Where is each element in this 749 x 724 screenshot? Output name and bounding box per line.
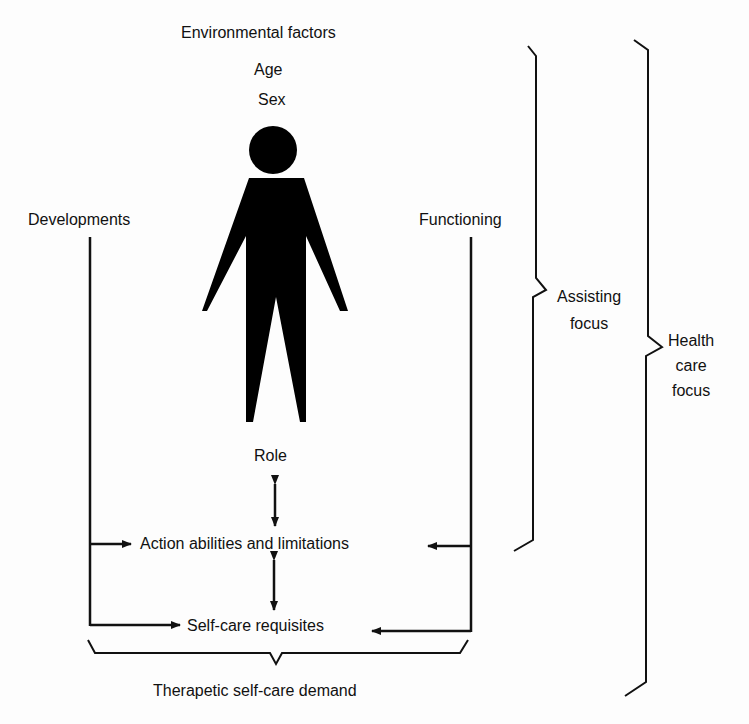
age-label: Age bbox=[254, 61, 282, 79]
developments-label: Developments bbox=[28, 211, 130, 229]
role-label: Role bbox=[254, 447, 287, 465]
developments-connector bbox=[90, 237, 180, 626]
functioning-label: Functioning bbox=[419, 211, 502, 229]
health-care-focus-label: Health care focus bbox=[668, 328, 714, 403]
sex-label: Sex bbox=[258, 91, 286, 109]
functioning-connector bbox=[372, 237, 471, 632]
health-line1: Health bbox=[668, 328, 714, 353]
bottom-brace bbox=[88, 640, 468, 664]
health-care-focus-brace bbox=[625, 40, 662, 696]
assisting-line1: Assisting bbox=[557, 283, 621, 310]
therapeutic-demand-label: Therapetic self-care demand bbox=[153, 682, 357, 700]
self-care-requisites-label: Self-care requisites bbox=[187, 617, 324, 635]
action-abilities-label: Action abilities and limitations bbox=[140, 535, 349, 553]
environmental-factors-label: Environmental factors bbox=[181, 24, 336, 42]
diagram-canvas bbox=[0, 0, 749, 724]
health-line3: focus bbox=[668, 378, 714, 403]
person-figure-icon bbox=[202, 126, 348, 422]
assisting-focus-brace bbox=[514, 46, 546, 551]
health-line2: care bbox=[668, 353, 714, 378]
assisting-focus-label: Assisting focus bbox=[557, 283, 621, 337]
assisting-line2: focus bbox=[557, 310, 621, 337]
